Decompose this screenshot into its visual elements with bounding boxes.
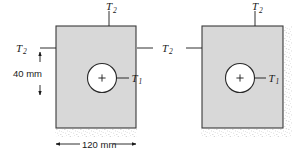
horizontal-dimension-label: 120 mm (82, 139, 116, 150)
vertical-dimension-label: 40 mm (13, 68, 42, 79)
right-block-t1-subscript: 1 (276, 77, 280, 86)
left-block-t1-subscript: 1 (139, 77, 143, 86)
right-block-t2-top-label: T (252, 0, 259, 12)
left-block-t2-top-label: T (106, 0, 113, 12)
left-block-t2-side-label: T (16, 42, 23, 54)
left-block-t1-label: T (132, 72, 139, 84)
right-block-t2-side-label: T (162, 42, 169, 54)
left-block-bottom-insulation (55, 129, 137, 137)
left-block-t2-top-subscript: 2 (113, 6, 117, 15)
left-block-t2-side-subscript: 2 (23, 47, 27, 56)
right-block-right-insulation (284, 26, 292, 137)
right-block-t2-top-subscript: 2 (259, 6, 263, 15)
right-block-bottom-insulation (201, 129, 284, 137)
figure-canvas: T 1 T 2 T 2 40 mm 120 mm (0, 0, 308, 156)
right-block-t2-side-subscript: 2 (169, 47, 173, 56)
vertical-dimension-group: 40 mm (13, 52, 42, 95)
right-block-group: T 1 T 2 T 2 (137, 0, 292, 137)
horizontal-dimension-group: 120 mm (56, 139, 136, 150)
heat-transfer-figure: T 1 T 2 T 2 40 mm 120 mm (0, 0, 308, 156)
right-block-t1-label: T (269, 72, 276, 84)
